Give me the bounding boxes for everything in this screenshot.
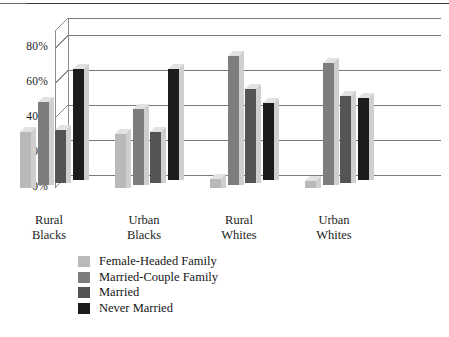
bar-face (115, 134, 126, 188)
bar-side-face (179, 64, 184, 181)
legend-item[interactable]: Married-Couple Family (78, 270, 218, 286)
legend-swatch-icon (78, 287, 90, 298)
bar-side-face (334, 58, 339, 185)
legend-swatch-icon (78, 256, 90, 267)
bar-side-face (239, 51, 244, 185)
legend-label: Never Married (99, 301, 173, 317)
bar-side-face (161, 127, 166, 183)
category-label-urban-blacks: UrbanBlacks (101, 213, 187, 243)
category-label-line: Whites (291, 228, 377, 243)
legend-label: Married (99, 285, 139, 301)
legend-item[interactable]: Married (78, 285, 218, 301)
page-top-rule (0, 3, 449, 4)
bar (228, 56, 239, 185)
category-label-urban-whites: UrbanWhites (291, 213, 377, 243)
category-label-line: Whites (196, 228, 282, 243)
legend-label: Female-Headed Family (99, 254, 217, 270)
chart-page: 0%20%40%60%80% RuralBlacksUrbanBlacksRur… (0, 0, 449, 337)
category-label-line: Blacks (6, 228, 92, 243)
bar (305, 181, 316, 188)
bar-chart: 0%20%40%60%80% (0, 8, 449, 213)
bar (263, 103, 274, 180)
bar-side-face (144, 104, 149, 186)
bar-side-face (256, 84, 261, 183)
bar-side-face (126, 129, 131, 188)
category-label-line: Urban (291, 213, 377, 228)
bar-series-layer (0, 8, 449, 213)
legend-label: Married-Couple Family (99, 270, 218, 286)
bar-face (340, 96, 351, 183)
bar-face (150, 132, 161, 183)
bar (133, 109, 144, 186)
bar (168, 69, 179, 181)
category-label-line: Urban (101, 213, 187, 228)
bar-side-face (49, 97, 54, 186)
bar-face (133, 109, 144, 186)
bar-side-face (351, 91, 356, 183)
bar-face (245, 89, 256, 183)
chart-legend: Female-Headed FamilyMarried-Couple Famil… (78, 254, 218, 316)
bar-face (323, 63, 334, 185)
bar-face (263, 103, 274, 180)
bar-face (73, 69, 84, 181)
bar (38, 102, 49, 186)
legend-item[interactable]: Never Married (78, 301, 218, 317)
legend-swatch-icon (78, 272, 90, 283)
bar-side-face (369, 93, 374, 180)
bar-face (168, 69, 179, 181)
bar-side-face (66, 125, 71, 182)
bar (245, 89, 256, 183)
bar (20, 132, 31, 188)
category-label-line: Blacks (101, 228, 187, 243)
bar-face (210, 179, 221, 188)
bar-side-face (31, 127, 36, 188)
bar-side-face (274, 98, 279, 180)
bar (358, 98, 369, 180)
bar-face (228, 56, 239, 185)
bar-side-face (84, 64, 89, 181)
bar (55, 130, 66, 182)
bar (210, 179, 221, 188)
page-top-rule-tick (0, 3, 26, 4)
bar (323, 63, 334, 185)
bar-face (20, 132, 31, 188)
category-label-rural-whites: RuralWhites (196, 213, 282, 243)
bar-face (305, 181, 316, 188)
bar-face (38, 102, 49, 186)
bar (73, 69, 84, 181)
bar (150, 132, 161, 183)
bar-face (55, 130, 66, 182)
bar (340, 96, 351, 183)
legend-swatch-icon (78, 303, 90, 314)
bar (115, 134, 126, 188)
category-label-line: Rural (196, 213, 282, 228)
legend-item[interactable]: Female-Headed Family (78, 254, 218, 270)
category-label-rural-blacks: RuralBlacks (6, 213, 92, 243)
category-label-line: Rural (6, 213, 92, 228)
bar-face (358, 98, 369, 180)
